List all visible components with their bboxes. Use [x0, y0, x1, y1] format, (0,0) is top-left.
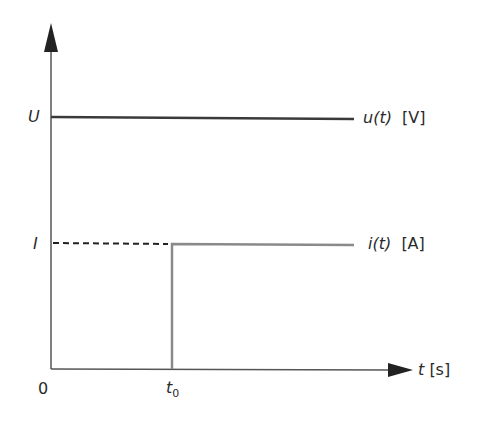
- x-tick-zero: 0: [38, 379, 48, 398]
- y-tick-U: U: [28, 107, 40, 126]
- u-legend-unit: [V]: [402, 108, 425, 127]
- x-axis-label: t [s]: [418, 360, 450, 379]
- i-level-dashed-line: [53, 243, 168, 244]
- chart-plot: [0, 0, 478, 424]
- i-legend-name: i(t): [368, 234, 391, 253]
- i-legend-unit: [A]: [401, 234, 424, 253]
- u-legend-name: u(t): [363, 108, 392, 127]
- x-axis: [51, 369, 390, 370]
- u-legend: u(t) [V]: [363, 108, 426, 127]
- x-axis-arrow-icon: [388, 363, 413, 377]
- i-legend: i(t) [A]: [368, 234, 425, 253]
- x-tick-t0: t0: [166, 378, 179, 400]
- x-axis-label-name: t: [418, 360, 424, 379]
- u-series-line: [51, 117, 354, 119]
- y-tick-I: I: [33, 234, 38, 253]
- x-axis-label-unit: [s]: [429, 360, 450, 379]
- i-series-line: [172, 244, 354, 369]
- y-axis-arrow-icon: [44, 23, 58, 52]
- x-tick-t0-subscript: 0: [172, 387, 179, 400]
